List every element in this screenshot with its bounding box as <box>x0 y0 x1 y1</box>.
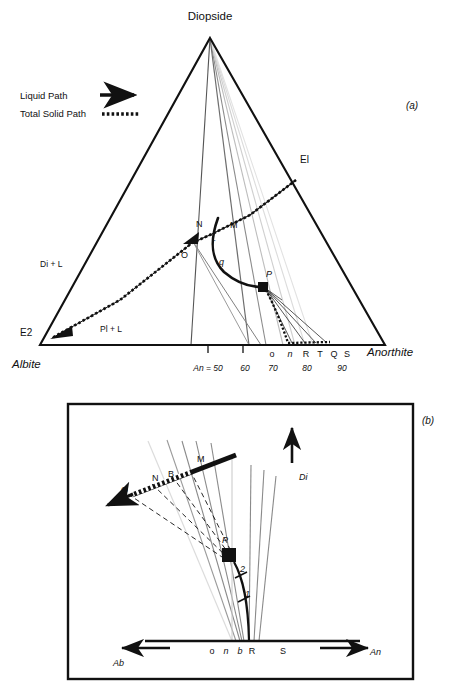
label-point-P-b: P <box>222 535 228 545</box>
label-point-r-a: r <box>212 237 216 247</box>
panel-b: O N B M P 2 1 Di Ab An o n b R S (b) <box>68 404 434 679</box>
label-point-2-b: 2 <box>239 564 245 574</box>
tieline-fan-plag <box>192 240 261 345</box>
label-point-N-a: N <box>196 219 203 229</box>
base-label-T: T <box>317 349 323 359</box>
base-axis-b <box>122 641 368 648</box>
panel-label-a: (a) <box>406 100 418 111</box>
axis-tick-labels-a: An = 50 60 70 80 90 <box>192 363 347 373</box>
base-point-labels-b: o n b R S <box>209 646 286 656</box>
label-point-B-b: B <box>168 469 174 479</box>
phase-diagram-svg: Liquid Path Total Solid Path Diopside Al… <box>0 0 449 693</box>
point-P-marker-b <box>222 548 236 562</box>
label-field-pl-l: Pl + L <box>100 324 122 334</box>
label-di-arrow-b: Di <box>299 472 308 482</box>
base-label-n: n <box>287 349 292 359</box>
tick-label-50: An = 50 <box>192 363 223 373</box>
label-e1: El <box>300 154 309 165</box>
label-e2: E2 <box>20 327 33 338</box>
figure-root: Liquid Path Total Solid Path Diopside Al… <box>0 0 449 693</box>
base-label-R: R <box>303 349 310 359</box>
label-point-O-b: O <box>121 485 128 495</box>
legend-solid-path-label: Total Solid Path <box>20 108 86 119</box>
tick-label-90: 90 <box>337 363 347 373</box>
tick-label-80: 80 <box>302 363 312 373</box>
base-ticks-a <box>208 345 243 353</box>
base-label-Q: Q <box>330 349 337 359</box>
label-point-O-a: O <box>181 250 188 260</box>
label-point-P-a: P <box>266 269 272 279</box>
label-point-M-a: M <box>230 220 238 230</box>
tick-label-70: 70 <box>268 363 278 373</box>
tick-label-60: 60 <box>240 363 250 373</box>
label-albite: Albite <box>11 358 41 370</box>
base-label-b-b: b <box>237 646 242 656</box>
tieline-fan-P <box>265 288 327 343</box>
solid-path-descent-a <box>266 290 330 343</box>
label-diopside: Diopside <box>188 10 233 22</box>
tieline-fan-apex <box>191 38 313 345</box>
label-point-M-b: M <box>197 454 205 464</box>
base-label-b-S: S <box>280 646 286 656</box>
ternary-triangle <box>40 38 385 345</box>
base-label-b-o: o <box>209 646 214 656</box>
label-an-arrow-b: An <box>369 647 381 657</box>
legend-liquid-path-label: Liquid Path <box>20 90 68 101</box>
panel-b-border <box>68 404 413 679</box>
panel-a: Liquid Path Total Solid Path Diopside Al… <box>11 10 418 373</box>
label-point-N-b: N <box>152 473 159 483</box>
base-point-labels-a: o n R T Q S <box>269 349 350 359</box>
base-label-o: o <box>269 349 274 359</box>
label-point-q-a: q <box>219 257 224 267</box>
label-anorthite: Anorthite <box>366 346 413 358</box>
legend-a: Liquid Path Total Solid Path <box>20 90 140 119</box>
base-label-b-R: R <box>249 646 256 656</box>
base-label-b-n: n <box>223 646 228 656</box>
label-point-1-b: 1 <box>245 589 250 599</box>
label-ab-arrow-b: Ab <box>112 658 124 668</box>
base-label-S: S <box>344 349 350 359</box>
panel-label-b: (b) <box>422 415 434 426</box>
label-field-di-l: Di + L <box>40 259 63 269</box>
